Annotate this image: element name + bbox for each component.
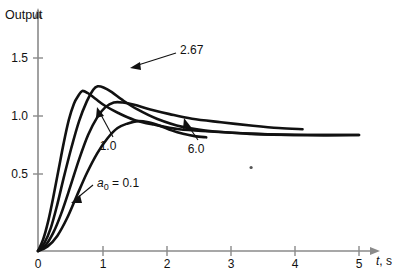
x-axis-title: t, s	[376, 254, 392, 268]
output-vs-time-chart: 1.5 1.0 0.5 0 1 2 3 4 5 Output t, s 2.67…	[0, 0, 409, 273]
x-tick-label-2: 2	[164, 257, 171, 271]
x-tick-label-0: 0	[35, 257, 42, 271]
stray-dot-artifact	[250, 166, 253, 169]
annotation-label-a0-0.1: a0 = 0.1	[97, 176, 139, 192]
curve-a0-0.1	[38, 91, 359, 251]
y-tick-label-1.5: 1.5	[11, 51, 28, 65]
x-tick-label-4: 4	[292, 257, 299, 271]
x-tick-label-5: 5	[356, 257, 363, 271]
annotation-label-2.67: 2.67	[180, 43, 204, 57]
annotation-a0-value: = 0.1	[109, 176, 140, 190]
y-tick-label-0.5: 0.5	[11, 167, 28, 181]
annotation-label-6.0: 6.0	[188, 142, 205, 156]
annotation-a0-0.1: a0 = 0.1	[71, 176, 139, 203]
x-tick-label-1: 1	[100, 257, 107, 271]
annotation-label-1.0: 1.0	[100, 139, 117, 153]
x-tick-label-3: 3	[228, 257, 235, 271]
y-tick-label-1.0: 1.0	[11, 109, 28, 123]
curve-a0-1.0	[38, 86, 359, 251]
x-axis-title-units: , s	[379, 254, 392, 268]
curve-group	[38, 86, 359, 251]
y-axis-title: Output	[5, 8, 43, 22]
annotation-2.67: 2.67	[130, 43, 204, 70]
